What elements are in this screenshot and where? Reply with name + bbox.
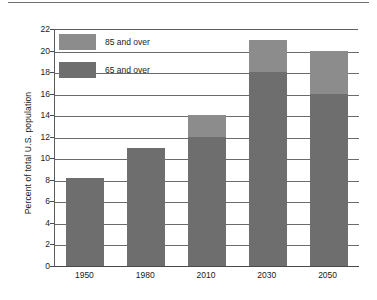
- y-axis-tick-label: 20: [24, 46, 50, 56]
- legend-label: 65 and over: [105, 65, 150, 75]
- y-axis-tick-mark: [50, 158, 54, 159]
- bar-segment-65-and-over: [249, 72, 287, 266]
- y-axis-tick-label: 6: [24, 196, 50, 206]
- bar-segment-85-and-over: [188, 115, 226, 137]
- y-axis-tick-label: 14: [24, 110, 50, 120]
- y-axis-tick-mark: [50, 72, 54, 73]
- bar-chart-figure: Percent of total U.S. population 85 and …: [0, 0, 377, 300]
- x-axis-tick-label: 2010: [176, 270, 236, 280]
- y-axis-tick-label: 12: [24, 132, 50, 142]
- y-axis-tick-label: 10: [24, 153, 50, 163]
- bar-segment-85-and-over: [310, 51, 348, 94]
- x-axis-baseline: [54, 266, 359, 267]
- y-axis-tick-label: 16: [24, 89, 50, 99]
- legend-label: 85 and over: [105, 37, 150, 47]
- bar: [66, 178, 104, 266]
- y-axis-tick-label: 4: [24, 218, 50, 228]
- y-axis-tick-mark: [50, 94, 54, 95]
- y-axis-tick-mark: [50, 266, 54, 267]
- bar-segment-65-and-over: [127, 148, 165, 267]
- y-axis-tick-mark: [50, 137, 54, 138]
- bar: [188, 115, 226, 266]
- y-axis-tick-mark: [50, 223, 54, 224]
- y-axis-tick-label: 22: [24, 24, 50, 34]
- y-axis-tick-mark: [50, 51, 54, 52]
- bar: [127, 148, 165, 267]
- legend-item: 65 and over: [59, 62, 150, 78]
- y-axis-tick-label: 2: [24, 239, 50, 249]
- x-axis-tick-label: 2030: [237, 270, 297, 280]
- bar-segment-65-and-over: [310, 94, 348, 266]
- x-axis-tick-label: 2050: [298, 270, 358, 280]
- y-axis-tick-mark: [50, 201, 54, 202]
- y-axis-tick-label: 8: [24, 175, 50, 185]
- y-axis-tick-mark: [50, 115, 54, 116]
- legend-swatch: [59, 34, 96, 50]
- x-axis-tick-label: 1950: [54, 270, 114, 280]
- y-axis-tick-mark: [50, 180, 54, 181]
- legend-item: 85 and over: [59, 34, 150, 50]
- bar-segment-85-and-over: [249, 40, 287, 72]
- plot-area: 85 and over65 and over: [54, 29, 358, 266]
- y-axis-tick-mark: [50, 244, 54, 245]
- y-axis-tick-label: 0: [24, 261, 50, 271]
- x-axis-tick-label: 1980: [115, 270, 175, 280]
- bar: [310, 51, 348, 266]
- y-axis-tick-mark: [50, 29, 54, 30]
- bar-segment-65-and-over: [66, 178, 104, 266]
- bar: [249, 40, 287, 266]
- y-axis-tick-label: 18: [24, 67, 50, 77]
- legend-swatch: [59, 62, 96, 78]
- bar-segment-65-and-over: [188, 137, 226, 266]
